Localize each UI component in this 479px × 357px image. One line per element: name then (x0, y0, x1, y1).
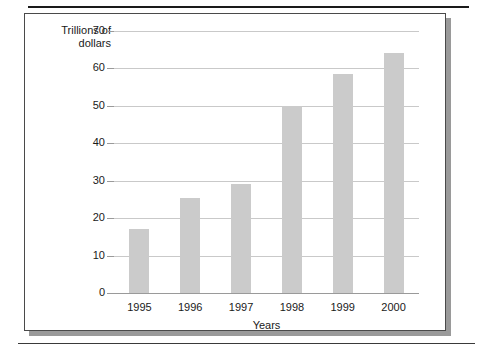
bar-group: 2000 (368, 31, 419, 293)
bar-1997 (231, 184, 251, 293)
bar-1995 (129, 229, 149, 293)
y-tick-label: 10 (71, 249, 114, 261)
bar-series: 199519961997199819992000 (114, 31, 419, 293)
x-tick-label: 1996 (165, 301, 216, 313)
x-axis-title: Years (114, 319, 419, 331)
bar-group: 1998 (266, 31, 317, 293)
x-tick-label: 1995 (114, 301, 165, 313)
bottom-rule (18, 343, 475, 344)
y-tick-label: 70 (71, 24, 114, 36)
x-tick-label: 1999 (317, 301, 368, 313)
y-tick-label: 30 (71, 174, 114, 186)
bar-2000 (384, 53, 404, 293)
figure-page: Trillions ofdollars 010203040506070 1995… (0, 0, 479, 357)
bar-group: 1995 (114, 31, 165, 293)
bar-group: 1999 (317, 31, 368, 293)
y-tick-label: 20 (71, 211, 114, 223)
x-tick-label: 1997 (216, 301, 267, 313)
bar-1999 (333, 74, 353, 293)
x-tick-label: 2000 (368, 301, 419, 313)
bar-1998 (282, 106, 302, 293)
bar-1996 (180, 198, 200, 293)
chart-frame: Trillions ofdollars 010203040506070 1995… (24, 13, 446, 331)
bar-group: 1996 (165, 31, 216, 293)
top-rule (28, 6, 469, 8)
plot-area: 010203040506070 199519961997199819992000 (114, 31, 419, 293)
y-tick-label: 60 (71, 61, 114, 73)
gridline: 0 (114, 293, 419, 294)
bar-chart: Trillions ofdollars 010203040506070 1995… (25, 14, 445, 330)
x-tick-label: 1998 (266, 301, 317, 313)
bar-group: 1997 (216, 31, 267, 293)
y-tick-label: 50 (71, 99, 114, 111)
y-tick-label: 0 (71, 286, 114, 298)
y-tick-label: 40 (71, 136, 114, 148)
y-axis-title-line2: dollars (79, 37, 111, 49)
